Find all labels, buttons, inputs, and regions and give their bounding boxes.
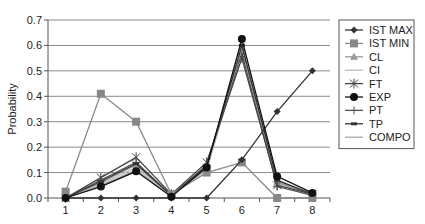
legend-label: CL [369,51,383,63]
axes [48,20,330,198]
x-tick-label: 6 [239,204,245,216]
x-tick-label: 4 [168,204,174,216]
x-tick-label: 5 [204,204,210,216]
y-tick-label: 0.7 [27,14,42,26]
line-chart: 0.00.10.20.30.40.50.60.7 12345678 Probab… [0,0,425,224]
legend-label: IST MIN [369,37,409,49]
legend-label: FT [369,78,383,90]
y-axis-ticks: 0.00.10.20.30.40.50.60.7 [27,14,48,204]
x-tick-label: 1 [63,204,69,216]
x-tick-label: 2 [98,204,104,216]
legend-label: EXP [369,91,391,103]
legend-label: CI [369,64,380,76]
y-tick-label: 0.0 [27,192,42,204]
legend-label: PT [369,104,383,116]
y-tick-label: 0.5 [27,65,42,77]
x-axis-ticks: 12345678 [48,198,330,216]
x-tick-label: 8 [309,204,315,216]
y-tick-label: 0.3 [27,116,42,128]
x-tick-label: 3 [133,204,139,216]
legend: IST MAXIST MINCLCIFTEXPPTTPCOMPO [339,20,414,149]
y-tick-label: 0.2 [27,141,42,153]
x-tick-label: 7 [274,204,280,216]
legend-label: COMPO [369,131,411,143]
y-tick-label: 0.6 [27,39,42,51]
y-axis-title: Probability [6,83,18,135]
y-tick-label: 0.1 [27,167,42,179]
series-lines [62,35,317,203]
y-tick-label: 0.4 [27,90,42,102]
legend-label: TP [369,118,383,130]
legend-label: IST MAX [369,24,413,36]
gridlines [48,20,330,173]
